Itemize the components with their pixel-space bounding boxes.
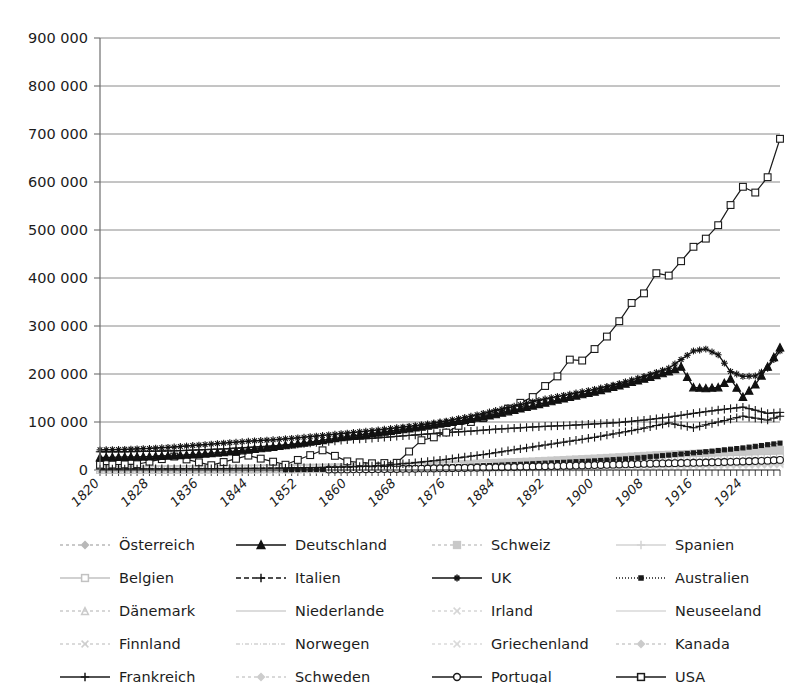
legend-item-frankreich[interactable]: Frankreich: [58, 660, 234, 683]
data-point: [704, 450, 708, 454]
data-point: [722, 448, 726, 452]
data-point: [648, 455, 652, 459]
data-point: [642, 455, 646, 459]
y-tick-label: 800 000: [28, 78, 88, 94]
data-point: [233, 455, 240, 462]
data-point: [764, 174, 771, 181]
x-tick-label: 1884: [464, 476, 498, 510]
x-tick-label: 1860: [315, 476, 349, 510]
x-tick-label: 1876: [414, 476, 448, 510]
legend-item-dnemark[interactable]: Dänemark: [58, 594, 234, 627]
data-point: [258, 673, 265, 680]
data-point: [579, 357, 586, 364]
data-point: [654, 454, 658, 458]
data-point: [630, 456, 634, 460]
legend-item-belgien[interactable]: Belgien: [58, 561, 234, 594]
legend-item-label: UK: [491, 570, 511, 586]
legend-marker-asterisk-icon: [430, 571, 484, 585]
legend-item-label: Neuseeland: [675, 603, 762, 619]
data-point: [690, 243, 697, 250]
x-tick-label: 1820: [68, 476, 102, 510]
y-axis-labels: 0100 000200 000300 000400 000500 000600 …: [28, 30, 88, 478]
legend-marker-square-small-icon: [614, 571, 668, 585]
x-tick-label: 1924: [711, 476, 745, 510]
legend-item-uk[interactable]: UK: [430, 561, 614, 594]
legend-item-label: Niederlande: [295, 603, 384, 619]
legend-item-portugal[interactable]: Portugal: [430, 660, 614, 683]
legend-item-norwegen[interactable]: Norwegen: [234, 627, 430, 660]
data-point: [418, 437, 425, 444]
data-point: [752, 189, 759, 196]
y-tick-label: 600 000: [28, 174, 88, 190]
legend-item-niederlande[interactable]: Niederlande: [234, 594, 430, 627]
data-point: [727, 202, 734, 209]
legend-item-usa[interactable]: USA: [614, 660, 774, 683]
data-point: [665, 272, 672, 279]
legend-marker-x-icon: [430, 604, 484, 618]
data-point: [702, 235, 709, 242]
x-tick-label: 1900: [563, 476, 597, 510]
y-tick-label: 500 000: [28, 222, 88, 238]
x-tick-label: 1844: [216, 476, 250, 510]
y-axis-ticks: [94, 38, 100, 470]
y-tick-label: 300 000: [28, 318, 88, 334]
data-point: [443, 429, 450, 436]
data-point: [777, 135, 784, 142]
legend-item-finnland[interactable]: Finnland: [58, 627, 234, 660]
data-point: [678, 258, 685, 265]
legend-item-griechenland[interactable]: Griechenland: [430, 627, 614, 660]
data-point: [766, 443, 770, 447]
legend-marker-diamond-icon: [614, 637, 668, 651]
data-point: [566, 356, 573, 363]
data-point: [641, 290, 648, 297]
data-point: [777, 457, 784, 464]
legend-item-label: Irland: [491, 603, 533, 619]
data-point: [257, 541, 265, 548]
data-point: [454, 541, 461, 548]
data-point: [772, 442, 776, 446]
legend-marker-triangle-icon: [58, 604, 112, 618]
legend-item-neuseeland[interactable]: Neuseeland: [614, 594, 774, 627]
y-tick-label: 100 000: [28, 414, 88, 430]
legend-item-kanada[interactable]: Kanada: [614, 627, 774, 660]
data-point: [777, 446, 784, 453]
legend-item-label: Dänemark: [119, 603, 195, 619]
legend-item-label: Kanada: [675, 636, 730, 652]
legend-marker-triangle-filled-icon: [234, 538, 288, 552]
legend-marker-none-icon: [234, 637, 288, 651]
data-point: [747, 445, 751, 449]
data-point: [716, 448, 720, 452]
legend-item-schweden[interactable]: Schweden: [234, 660, 430, 683]
legend-item-deutschland[interactable]: Deutschland: [234, 528, 430, 561]
data-point: [332, 452, 339, 459]
legend-marker-diamond-icon: [234, 670, 288, 683]
data-point: [639, 576, 643, 580]
legend-item-australien[interactable]: Australien: [614, 561, 774, 594]
legend-marker-diamond-icon: [58, 538, 112, 552]
legend-item-italien[interactable]: Italien: [234, 561, 430, 594]
data-point: [430, 434, 437, 441]
data-point: [721, 379, 729, 386]
data-point: [653, 270, 660, 277]
data-point: [698, 450, 702, 454]
y-tick-label: 200 000: [28, 366, 88, 382]
x-tick-label: 1836: [167, 476, 201, 510]
data-point: [638, 640, 645, 647]
legend-marker-none-icon: [614, 604, 668, 618]
data-point: [735, 447, 739, 451]
data-point: [638, 673, 645, 680]
data-point: [685, 451, 689, 455]
legend-item-schweiz[interactable]: Schweiz: [430, 528, 614, 561]
line-chart-svg: 0100 000200 000300 000400 000500 000600 …: [0, 0, 792, 520]
data-point: [307, 452, 314, 459]
legend-item-irland[interactable]: Irland: [430, 594, 614, 627]
chart-legend: ÖsterreichDeutschlandSchweizSpanienBelgi…: [58, 528, 758, 683]
legend-item-spanien[interactable]: Spanien: [614, 528, 774, 561]
x-tick-label: 1868: [365, 476, 399, 510]
data-point: [667, 453, 671, 457]
legend-item-label: Schweiz: [491, 537, 551, 553]
legend-marker-square-open-icon: [58, 571, 112, 585]
data-point: [759, 444, 763, 448]
legend-item-sterreich[interactable]: Österreich: [58, 528, 234, 561]
legend-item-label: Spanien: [675, 537, 734, 553]
